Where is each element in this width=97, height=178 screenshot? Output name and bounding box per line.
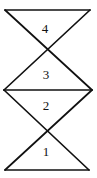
triangle-diagram: 4 3 2 1 bbox=[0, 0, 97, 178]
triangle-zigzag-figure: 4 3 2 1 bbox=[0, 0, 97, 178]
triangle-3-label: 3 bbox=[43, 67, 50, 82]
triangle-1-label: 1 bbox=[43, 144, 50, 159]
triangle-4-label: 4 bbox=[42, 21, 49, 36]
triangle-2-label: 2 bbox=[43, 98, 50, 113]
